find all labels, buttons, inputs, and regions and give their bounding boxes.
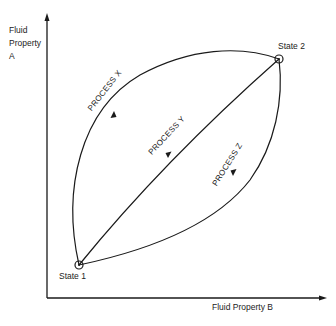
process-y-direction-arrow-icon <box>166 152 172 159</box>
y-axis-arrowhead-icon <box>45 13 50 21</box>
y-axis-label: Fluid Property A <box>9 24 49 63</box>
y-axis-label-line-2: Property <box>9 37 49 50</box>
state-1-dot-icon <box>78 264 80 266</box>
process-z-direction-arrow-icon <box>231 169 237 176</box>
y-axis-label-line-1: Fluid <box>9 24 49 37</box>
process-x-direction-arrow-icon <box>111 111 117 118</box>
y-axis-label-line-3: A <box>9 50 49 63</box>
x-axis-label: Fluid Property B <box>212 302 273 313</box>
state-2-dot-icon <box>278 58 280 60</box>
x-axis-arrowhead-icon <box>319 296 327 301</box>
state-2-label: State 2 <box>278 41 305 52</box>
state-1-label: State 1 <box>59 271 86 282</box>
